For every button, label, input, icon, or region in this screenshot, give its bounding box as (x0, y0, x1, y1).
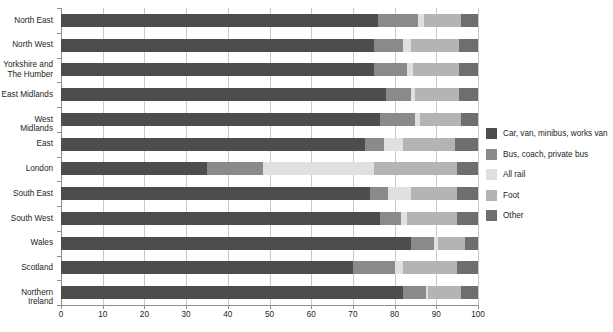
bar-segment (457, 212, 478, 225)
y-axis-label: East Midlands (2, 90, 53, 100)
bar-row (61, 212, 478, 225)
bar-segment (374, 162, 457, 175)
legend-item[interactable]: All rail (486, 167, 611, 182)
x-axis-tick (270, 305, 271, 309)
bar-segment (61, 187, 370, 200)
x-axis-tick (186, 305, 187, 309)
x-axis-label: 90 (432, 310, 441, 319)
legend-swatch-icon (486, 190, 497, 201)
bar-segment (263, 162, 374, 175)
y-axis-label: South East (13, 189, 53, 199)
legend-label: All rail (503, 170, 525, 179)
stacked-bar (61, 63, 478, 76)
bar-segment (61, 261, 353, 274)
legend: Car, van, minibus, works vanBus, coach, … (486, 126, 611, 229)
legend-item[interactable]: Other (486, 208, 611, 223)
legend-item[interactable]: Foot (486, 188, 611, 203)
bar-segment (380, 212, 401, 225)
bar-row (61, 162, 478, 175)
legend-swatch-icon (486, 128, 497, 139)
bar-row (61, 63, 478, 76)
stacked-bar (61, 212, 478, 225)
legend-swatch-icon (486, 169, 497, 180)
x-axis-tick (61, 305, 62, 309)
bar-row (61, 286, 478, 299)
bar-segment (461, 113, 478, 126)
bar-row (61, 237, 478, 250)
stacked-bar (61, 138, 478, 151)
bar-segment (428, 286, 461, 299)
bar-segment (370, 187, 389, 200)
legend-swatch-icon (486, 149, 497, 160)
x-axis-tick (144, 305, 145, 309)
bar-segment (459, 39, 478, 52)
y-axis-label: North East (14, 16, 53, 26)
bar-segment (403, 286, 426, 299)
bar-row (61, 187, 478, 200)
bar-segment (411, 237, 434, 250)
bar-segment (380, 113, 415, 126)
bar-rows (61, 8, 478, 305)
bar-segment (61, 14, 378, 27)
legend-label: Foot (503, 191, 519, 200)
legend-label: Bus, coach, private bus (503, 150, 588, 159)
bar-segment (374, 63, 407, 76)
x-axis-label: 100 (471, 310, 485, 319)
bar-segment (411, 187, 457, 200)
bar-segment (407, 212, 457, 225)
bar-row (61, 14, 478, 27)
x-axis-label: 20 (140, 310, 149, 319)
bar-segment (388, 187, 411, 200)
y-axis-label: Yorkshire and The Humber (3, 60, 53, 79)
x-axis-label: 30 (182, 310, 191, 319)
stacked-bar (61, 237, 478, 250)
bar-row (61, 138, 478, 151)
x-axis-labels: 0102030405060708090100 (0, 310, 613, 328)
bar-segment (353, 261, 395, 274)
bar-segment (403, 261, 457, 274)
bar-segment (455, 138, 478, 151)
y-axis-label: Northern Ireland (0, 288, 53, 307)
bar-segment (459, 63, 478, 76)
x-axis-tick (103, 305, 104, 309)
bar-row (61, 261, 478, 274)
bar-segment (461, 286, 478, 299)
stacked-bar-chart: North EastNorth WestYorkshire and The Hu… (0, 0, 613, 332)
bar-segment (457, 187, 478, 200)
stacked-bar (61, 261, 478, 274)
bar-row (61, 113, 478, 126)
bar-segment (61, 237, 411, 250)
bar-segment (465, 237, 478, 250)
bar-segment (415, 88, 459, 101)
y-axis-label: Scotland (21, 263, 53, 273)
bar-row (61, 88, 478, 101)
stacked-bar (61, 88, 478, 101)
bar-segment (61, 212, 380, 225)
bar-segment (424, 14, 462, 27)
plot-area (61, 8, 478, 305)
bar-segment (403, 39, 411, 52)
bar-segment (438, 237, 465, 250)
x-axis-label: 60 (307, 310, 316, 319)
x-axis-label: 70 (348, 310, 357, 319)
bar-segment (61, 138, 365, 151)
bar-segment (61, 88, 386, 101)
y-axis-label: London (26, 164, 53, 174)
bar-segment (365, 138, 384, 151)
legend-label: Other (503, 211, 523, 220)
x-axis-tick (478, 305, 479, 309)
stacked-bar (61, 162, 478, 175)
bar-segment (459, 88, 478, 101)
y-axis-label: Wales (31, 238, 53, 248)
bar-row (61, 39, 478, 52)
x-axis-tick (228, 305, 229, 309)
bar-segment (386, 88, 411, 101)
x-axis-tick (395, 305, 396, 309)
stacked-bar (61, 39, 478, 52)
bar-segment (374, 39, 403, 52)
legend-item[interactable]: Bus, coach, private bus (486, 147, 611, 162)
x-axis-label: 10 (98, 310, 107, 319)
legend-item[interactable]: Car, van, minibus, works van (486, 126, 611, 141)
bar-segment (461, 14, 478, 27)
stacked-bar (61, 14, 478, 27)
